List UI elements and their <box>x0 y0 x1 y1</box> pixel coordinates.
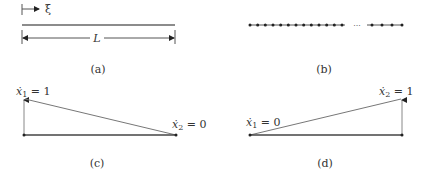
mesh-node <box>302 24 305 27</box>
mesh-node <box>264 24 267 27</box>
label-x1-d: ẋ1 = 0 <box>246 116 281 130</box>
label-x1-c: ẋ1 = 1 <box>16 85 51 99</box>
mesh-node <box>249 24 252 27</box>
mesh-node <box>333 24 336 27</box>
mesh-node <box>391 24 394 27</box>
label-x2-c: ẋ2 = 0 <box>172 118 207 132</box>
mesh-node <box>401 24 404 27</box>
node-2 <box>401 134 404 137</box>
caption-a: (a) <box>90 63 105 76</box>
caption-c: (c) <box>90 157 105 170</box>
panel-c: ẋ1 = 1 ẋ2 = 0 (c) <box>16 85 207 170</box>
caption-b: (b) <box>316 63 332 76</box>
mesh-node <box>341 24 344 27</box>
mesh-node <box>272 24 275 27</box>
mesh-node <box>295 24 298 27</box>
mesh-node <box>310 24 313 27</box>
caption-d: (d) <box>317 157 333 170</box>
panel-b: ··· (b) <box>249 21 404 76</box>
mesh-node <box>279 24 282 27</box>
mesh-node <box>318 24 321 27</box>
node-1 <box>23 134 26 137</box>
node-1 <box>249 134 252 137</box>
mesh-ellipsis: ··· <box>353 21 361 30</box>
length-symbol: L <box>92 32 100 45</box>
shape-function-slope <box>25 99 176 135</box>
panel-a: ξ L (a) <box>22 3 175 76</box>
mesh-node <box>325 24 328 27</box>
panel-d: ẋ1 = 0 ẋ2 = 1 (d) <box>246 85 414 170</box>
mesh-node <box>256 24 259 27</box>
mesh-node <box>371 24 374 27</box>
finite-element-figure: ξ L (a) ··· (b) ẋ1 = 1 ẋ2 = 0 (c) <box>0 0 426 177</box>
mesh-node <box>287 24 290 27</box>
mesh-node <box>381 24 384 27</box>
xi-symbol: ξ <box>45 3 51 16</box>
label-x2-d: ẋ2 = 1 <box>379 85 414 99</box>
node-2 <box>175 134 178 137</box>
